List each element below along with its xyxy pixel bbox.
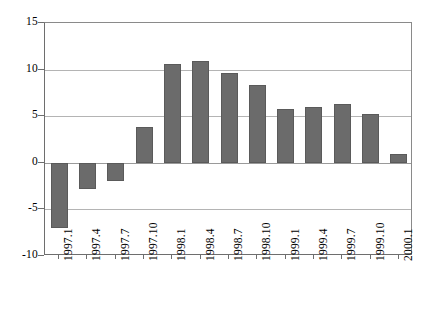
bar xyxy=(334,104,351,163)
y-axis-tick-label: -10 xyxy=(22,249,38,261)
x-tick xyxy=(115,255,116,259)
gridline-0 xyxy=(45,163,411,164)
bar xyxy=(164,64,181,163)
bar xyxy=(79,163,96,189)
bar xyxy=(136,127,153,162)
x-axis-tick-label: 1999.1 xyxy=(290,228,302,261)
bar xyxy=(390,154,407,162)
x-tick xyxy=(143,255,144,259)
y-axis-tick-label: 0 xyxy=(32,156,38,168)
gridline-10 xyxy=(45,70,411,71)
bar xyxy=(51,163,68,228)
bar xyxy=(277,109,294,163)
x-tick xyxy=(256,255,257,259)
y-axis-tick-label: -5 xyxy=(28,202,38,214)
bar xyxy=(221,73,238,162)
x-tick xyxy=(86,255,87,259)
bar xyxy=(362,114,379,162)
bar-chart: 151050-5-10 1997.11997.41997.71997.10199… xyxy=(0,0,431,315)
gridline-neg5 xyxy=(45,209,411,210)
x-tick xyxy=(58,255,59,259)
x-tick xyxy=(200,255,201,259)
x-tick xyxy=(285,255,286,259)
y-tick-neg10 xyxy=(38,255,44,256)
x-axis-tick-label: 1997.7 xyxy=(120,228,132,261)
y-axis-tick-label: 15 xyxy=(26,16,38,28)
x-tick xyxy=(370,255,371,259)
x-axis-tick-label: 1998.10 xyxy=(261,222,273,261)
x-axis-tick-label: 1998.1 xyxy=(176,228,188,261)
bar xyxy=(192,61,209,163)
x-tick xyxy=(398,255,399,259)
x-axis-tick-label: 2000.1 xyxy=(403,228,415,261)
plot-area xyxy=(44,22,412,255)
x-axis-tick-label: 1997.4 xyxy=(91,228,103,261)
x-tick xyxy=(171,255,172,259)
y-axis-tick-label: 5 xyxy=(32,109,38,121)
bar xyxy=(249,85,266,162)
y-axis-tick-label: 10 xyxy=(26,63,38,75)
x-axis-tick-label: 1998.7 xyxy=(233,228,245,261)
x-axis-tick-label: 1998.4 xyxy=(205,228,217,261)
x-axis-tick-label: 1999.7 xyxy=(346,228,358,261)
x-tick xyxy=(228,255,229,259)
x-axis-tick-label: 1997.1 xyxy=(63,228,75,261)
bar xyxy=(107,163,124,181)
x-axis-tick-label: 1999.10 xyxy=(375,222,387,261)
x-tick xyxy=(313,255,314,259)
x-axis-tick-label: 1999.4 xyxy=(318,228,330,261)
bar xyxy=(305,107,322,163)
x-axis-tick-label: 1997.10 xyxy=(148,222,160,261)
x-tick xyxy=(341,255,342,259)
